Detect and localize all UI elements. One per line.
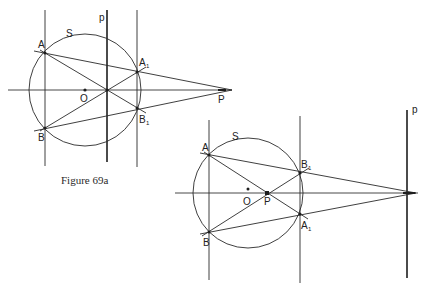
point-p xyxy=(265,191,269,195)
point-far xyxy=(403,192,415,194)
secant-a-p xyxy=(34,51,232,90)
label-pole-p: P xyxy=(218,94,225,105)
figure-b: S p A B O P B 1 A 1 xyxy=(175,104,418,283)
point-o xyxy=(247,188,250,191)
secant-b-p xyxy=(34,90,232,131)
label-p-polar: p xyxy=(99,12,105,23)
label-b1-subscript: 1 xyxy=(146,120,150,126)
label-a1-subscript: 1 xyxy=(308,226,312,232)
point-intersection xyxy=(105,88,108,91)
label-o: O xyxy=(243,196,251,207)
point-b1 xyxy=(136,107,139,110)
chord-a-a1 xyxy=(204,152,308,219)
label-p-polar: p xyxy=(412,104,418,115)
secant-a-far xyxy=(200,153,416,193)
label-b1-subscript: 1 xyxy=(308,165,312,171)
point-a1 xyxy=(136,71,139,74)
figure-a: S p A B O P A 1 B 1 xyxy=(8,10,232,167)
point-a xyxy=(208,154,211,157)
label-a: A xyxy=(38,39,45,50)
point-b xyxy=(44,127,47,130)
label-pole-p: P xyxy=(264,196,271,207)
label-a1: A xyxy=(301,220,308,231)
chord-b-a1 xyxy=(40,67,146,131)
point-a1 xyxy=(299,213,302,216)
label-b: B xyxy=(203,237,210,248)
label-b: B xyxy=(38,132,45,143)
point-o xyxy=(83,88,86,91)
point-p xyxy=(218,89,226,91)
figure-caption: Figure 69a xyxy=(61,174,108,186)
label-o: O xyxy=(80,93,88,104)
point-b1 xyxy=(299,172,302,175)
label-a1: A xyxy=(139,57,146,68)
point-b xyxy=(208,231,211,234)
point-a xyxy=(44,52,47,55)
chord-a-b1 xyxy=(40,50,146,113)
chord-b-b1 xyxy=(202,168,309,236)
label-a: A xyxy=(202,142,209,153)
label-a1-subscript: 1 xyxy=(146,63,150,69)
label-b1: B xyxy=(301,159,308,170)
label-s: S xyxy=(66,28,73,39)
diagram-canvas: S p A B O P A 1 B 1 S p A xyxy=(0,0,423,290)
label-b1: B xyxy=(139,114,146,125)
label-s: S xyxy=(232,131,239,142)
